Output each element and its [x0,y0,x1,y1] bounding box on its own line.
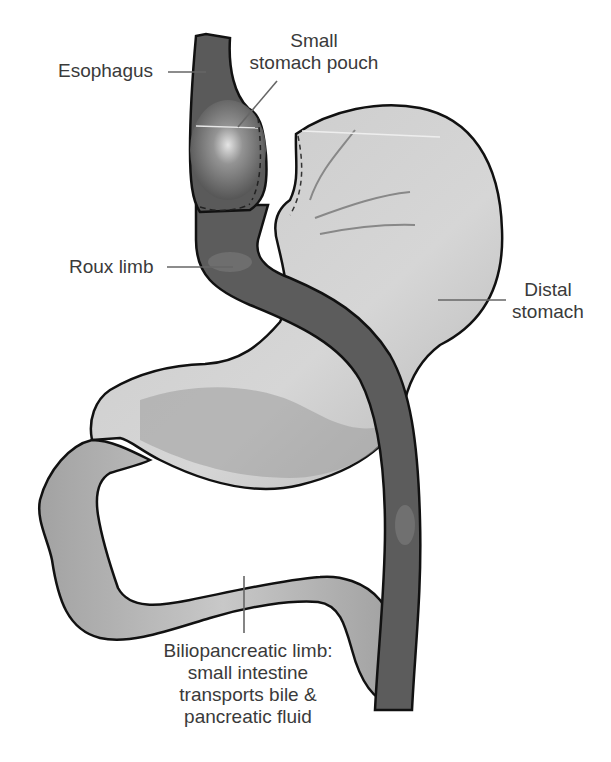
label-small-stomach-pouch: Small stomach pouch [243,30,385,74]
label-pouch-line1: Small [243,30,385,52]
label-esophagus: Esophagus [58,60,153,82]
label-distal-line1: Distal [508,279,588,301]
label-distal-line2: stomach [508,301,588,323]
label-distal-stomach: Distal stomach [508,279,588,323]
label-bp-line4: pancreatic fluid [153,706,343,728]
label-bp-line3: transports bile & [153,684,343,706]
label-roux-limb: Roux limb [69,256,153,278]
label-bp-line2: small intestine [153,662,343,684]
label-bp-line1: Biliopancreatic limb: [153,640,343,662]
label-pouch-line2: stomach pouch [243,52,385,74]
label-biliopancreatic-limb: Biliopancreatic limb: small intestine tr… [153,640,343,728]
